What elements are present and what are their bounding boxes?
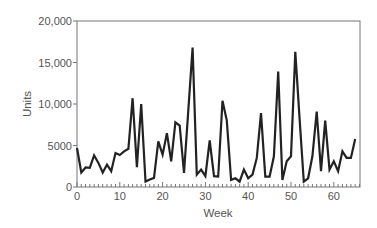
y-tick-label: 0 (66, 181, 72, 193)
y-axis-tick-labels: 0500010,00015,00020,000 (38, 15, 72, 193)
y-tick-label: 15,000 (38, 57, 72, 69)
y-tick-label: 20,000 (38, 15, 72, 27)
y-axis-ticks (73, 21, 77, 187)
x-tick-label: 50 (285, 190, 297, 202)
x-axis-tick-labels: 0102030405060 (74, 190, 340, 202)
x-tick-label: 40 (242, 190, 254, 202)
y-axis-title: Units (21, 91, 33, 117)
x-axis-title: Week (203, 207, 232, 219)
units-series-line (77, 48, 355, 182)
x-tick-label: 0 (74, 190, 80, 202)
x-tick-label: 60 (328, 190, 340, 202)
x-tick-label: 30 (199, 190, 211, 202)
x-tick-label: 20 (156, 190, 168, 202)
x-tick-label: 10 (114, 190, 126, 202)
y-tick-label: 5000 (48, 140, 72, 152)
x-axis-ticks (77, 182, 359, 187)
y-tick-label: 10,000 (38, 98, 72, 110)
line-chart: 0102030405060 0500010,00015,00020,000 We… (0, 0, 377, 228)
